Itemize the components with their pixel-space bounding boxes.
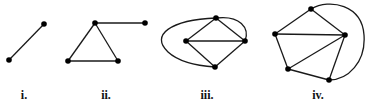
vertex: [272, 31, 278, 37]
vertex: [115, 58, 121, 64]
edge: [288, 69, 329, 80]
edge: [95, 23, 118, 61]
vertex: [285, 66, 291, 72]
edge: [288, 35, 345, 69]
edge: [275, 9, 311, 34]
edge: [311, 9, 345, 35]
edge: [68, 23, 95, 61]
label-graph-i: i.: [21, 88, 27, 103]
graph-iii: [161, 15, 247, 70]
label-graph-ii: ii.: [101, 88, 111, 103]
vertex: [183, 38, 189, 44]
label-graph-iv: iv.: [312, 88, 324, 103]
edge: [9, 24, 44, 60]
edge: [216, 18, 245, 41]
vertex: [41, 21, 47, 27]
vertex: [308, 6, 314, 12]
vertex: [6, 57, 12, 63]
vertex: [65, 58, 71, 64]
vertex: [213, 15, 219, 21]
vertex: [142, 20, 148, 26]
curved-edge: [161, 18, 216, 67]
edge: [215, 41, 245, 67]
edge: [275, 34, 345, 35]
vertex: [242, 38, 248, 44]
graph-figure: [0, 0, 365, 107]
vertex: [342, 32, 348, 38]
graph-i: [6, 21, 47, 63]
graph-iv: [272, 4, 364, 83]
graph-ii: [65, 20, 148, 64]
vertex: [92, 20, 98, 26]
edge: [275, 34, 288, 69]
vertex: [326, 77, 332, 83]
label-graph-iii: iii.: [200, 88, 213, 103]
edge: [329, 35, 345, 80]
vertex: [212, 64, 218, 70]
